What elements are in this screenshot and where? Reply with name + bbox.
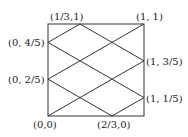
label-p23_0: (2/3,0) — [97, 119, 131, 130]
segment-0 — [48, 61, 144, 116]
label-p13_1: (1/3,1) — [50, 11, 84, 22]
segment-1 — [48, 24, 144, 79]
point-labels: (0,0)(2/3,0)(1/3,1)(1, 1)(0, 4/5)(0, 2/5… — [8, 11, 183, 130]
segment-5 — [48, 42, 144, 97]
label-p11: (1, 1) — [136, 11, 163, 22]
segment-2 — [112, 98, 144, 116]
line-segments — [48, 24, 144, 116]
segment-3 — [48, 24, 80, 42]
label-p0_25: (0, 2/5) — [8, 74, 45, 85]
label-p1_15: (1, 1/5) — [146, 93, 183, 104]
label-p0_45: (0, 4/5) — [8, 37, 45, 48]
label-p00: (0,0) — [33, 119, 57, 130]
label-p1_35: (1, 3/5) — [146, 56, 183, 67]
unit-square-diagram: (0,0)(2/3,0)(1/3,1)(1, 1)(0, 4/5)(0, 2/5… — [0, 0, 188, 137]
